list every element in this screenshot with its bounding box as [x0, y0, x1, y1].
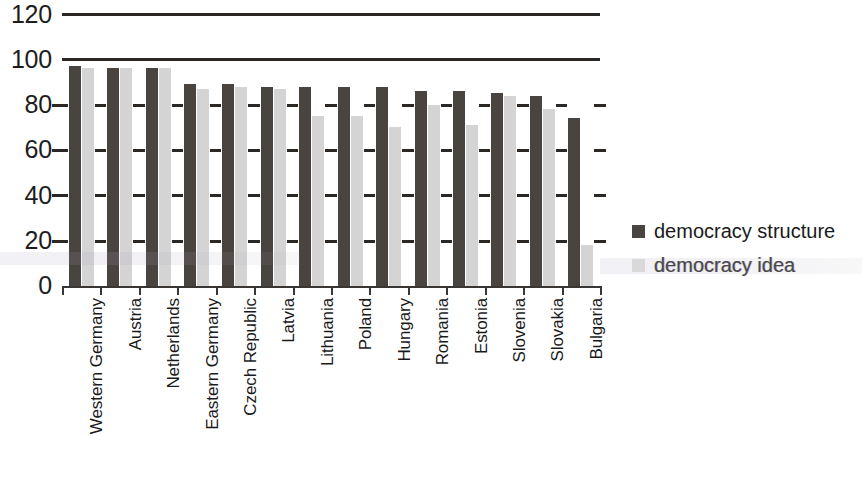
gridline-80 [517, 104, 528, 107]
gridline-60 [325, 149, 336, 152]
x-axis-tick [177, 286, 179, 295]
x-axis-tick [254, 286, 256, 295]
bar-group [261, 14, 286, 286]
x-axis-label-romania: Romania [434, 298, 451, 365]
gridline-20 [95, 240, 106, 243]
bar-group [376, 14, 401, 286]
gridline-20 [441, 240, 452, 243]
bar-group [568, 14, 593, 286]
x-axis-label-slovakia: Slovakia [549, 298, 566, 361]
x-axis-tick [446, 286, 448, 295]
gridline-20 [133, 240, 144, 243]
gridline-40 [441, 194, 452, 197]
bar-group [146, 14, 171, 286]
bar-group [338, 14, 363, 286]
gridline-20 [364, 240, 375, 243]
gridline-40 [479, 194, 490, 197]
gridline-40 [402, 194, 413, 197]
bar-democracy-idea [274, 89, 286, 286]
bar-democracy-structure [415, 91, 427, 286]
x-axis-tick [562, 286, 564, 295]
bar-democracy-idea [351, 116, 363, 286]
gridline-40 [172, 194, 183, 197]
gridline-60 [210, 149, 221, 152]
bar-democracy-idea [389, 127, 401, 286]
bar-democracy-idea [543, 109, 555, 286]
gridline-80 [133, 104, 144, 107]
x-axis-tick [600, 286, 602, 295]
legend-label: democracy idea [654, 255, 795, 275]
bar-democracy-idea [504, 96, 516, 286]
gridline-40 [133, 194, 144, 197]
gridline-20 [325, 240, 336, 243]
gridline-40 [594, 194, 605, 197]
x-axis-label-lithuania: Lithuania [319, 298, 336, 366]
bar-group [107, 14, 132, 286]
x-axis-label-poland: Poland [357, 298, 374, 350]
x-axis-label-netherlands: Netherlands [165, 298, 182, 389]
bar-democracy-idea [82, 68, 94, 286]
bar-democracy-idea [466, 125, 478, 286]
x-axis-tick [523, 286, 525, 295]
legend-item-democracy-idea: democracy idea [632, 248, 862, 282]
gridline-20 [556, 240, 567, 243]
gridline-40 [517, 194, 528, 197]
gridline-60 [287, 149, 298, 152]
gridline-40 [248, 194, 259, 197]
gridline-40 [556, 194, 567, 197]
gridline-20 [52, 240, 68, 243]
legend-swatch-icon [632, 225, 645, 238]
gridline-60 [556, 149, 567, 152]
legend-item-democracy-structure: democracy structure [632, 214, 862, 248]
gridline-80 [95, 104, 106, 107]
gridline-40 [95, 194, 106, 197]
gridline-80 [364, 104, 375, 107]
x-axis-tick [293, 286, 295, 295]
bar-democracy-idea [197, 89, 209, 286]
gridline-60 [364, 149, 375, 152]
gridline-60 [402, 149, 413, 152]
gridline-40 [325, 194, 336, 197]
legend-swatch-icon [632, 259, 645, 272]
x-axis-label-bulgaria: Bulgaria [588, 298, 605, 360]
gridline-20 [287, 240, 298, 243]
x-axis-label-western-germany: Western Germany [88, 298, 105, 434]
gridline-60 [248, 149, 259, 152]
gridline-60 [95, 149, 106, 152]
gridline-40 [52, 194, 68, 197]
bar-democracy-structure [299, 87, 311, 286]
x-axis-tick [485, 286, 487, 295]
bar-chart: 120 100 80 60 40 20 0 democracy structur… [0, 0, 865, 491]
bar-democracy-idea [312, 116, 324, 286]
bar-group [222, 14, 247, 286]
bar-democracy-structure [184, 84, 196, 286]
gridline-60 [172, 149, 183, 152]
gridline-60 [52, 149, 68, 152]
bar-democracy-idea [235, 87, 247, 286]
legend: democracy structure democracy idea [632, 214, 862, 282]
gridline-80 [210, 104, 221, 107]
x-axis-label-estonia: Estonia [473, 298, 490, 354]
bar-democracy-structure [338, 87, 350, 286]
x-axis-label-eastern-germany: Eastern Germany [204, 298, 221, 430]
bar-democracy-idea [428, 105, 440, 286]
bar-democracy-structure [146, 68, 158, 286]
bar-democracy-structure [376, 87, 388, 286]
gridline-40 [364, 194, 375, 197]
x-axis-tick [408, 286, 410, 295]
bar-democracy-structure [491, 93, 503, 286]
gridline-20 [172, 240, 183, 243]
gridline-80 [172, 104, 183, 107]
gridline-20 [248, 240, 259, 243]
bar-democracy-idea [120, 68, 132, 286]
gridline-60 [479, 149, 490, 152]
gridline-80 [248, 104, 259, 107]
bar-democracy-idea [581, 245, 593, 286]
legend-label: democracy structure [654, 221, 835, 241]
x-axis-tick [100, 286, 102, 295]
gridline-80 [594, 104, 605, 107]
x-axis-label-latvia: Latvia [280, 298, 297, 343]
gridline-80 [287, 104, 298, 107]
bar-democracy-structure [453, 91, 465, 286]
gridline-60 [441, 149, 452, 152]
